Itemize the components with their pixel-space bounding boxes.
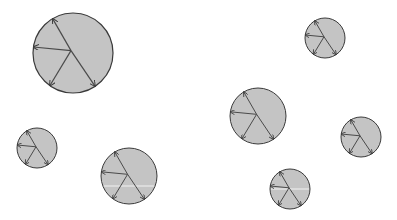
circle-medium-center-right (230, 88, 286, 144)
circle-small-left (17, 128, 57, 168)
circle-rays-diagram (0, 0, 397, 220)
diagram-canvas (0, 0, 397, 220)
circle-large-top-left (33, 13, 113, 93)
circle-small-right (341, 117, 381, 157)
circle-small-bottom-right (270, 169, 310, 209)
circle-medium-bottom (101, 148, 157, 204)
circles-group (17, 13, 381, 209)
circle-small-top-right (305, 18, 345, 58)
